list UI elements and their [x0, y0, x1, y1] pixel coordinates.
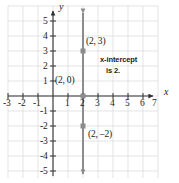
y-tick-label: -3	[40, 137, 48, 147]
y-tick-label: -2	[40, 122, 48, 132]
y-tick-label: 5	[43, 17, 48, 27]
point-label-2-3: (2, 3)	[86, 37, 105, 47]
figure-canvas: y x -3 -2 -1 1 2 3 4 5 6 7 5 4 3 2 1 -1 …	[0, 0, 179, 183]
x-tick-label: 4	[110, 99, 115, 109]
x-tick-label: 1	[65, 99, 70, 109]
x-tick-label: 2	[80, 99, 85, 109]
y-axis-label: y	[59, 2, 63, 12]
y-tick-label: 4	[43, 32, 48, 42]
coordinate-plane-graphic	[0, 0, 179, 183]
x-tick-label: 5	[125, 99, 130, 109]
x-tick-label: 7	[152, 99, 157, 109]
x-intercept-note-line1: x-intercept	[100, 55, 137, 65]
y-tick-label: -5	[40, 167, 48, 177]
x-tick-label: 6	[140, 99, 145, 109]
y-tick-label: -1	[40, 107, 48, 117]
x-tick-label: 3	[95, 99, 100, 109]
x-tick-label: -2	[18, 99, 26, 109]
y-tick-label: 3	[43, 47, 48, 57]
y-tick-label: 2	[43, 62, 48, 72]
y-tick-label: 1	[43, 77, 48, 87]
point-label-2-neg2: (2, –2)	[88, 130, 112, 140]
x-intercept-note-line2: is 2.	[106, 66, 120, 76]
x-tick-label: -3	[3, 99, 11, 109]
x-axis-label: x	[164, 87, 168, 97]
point-label-2-0: (2, 0)	[55, 76, 74, 86]
y-tick-label: -4	[40, 152, 48, 162]
